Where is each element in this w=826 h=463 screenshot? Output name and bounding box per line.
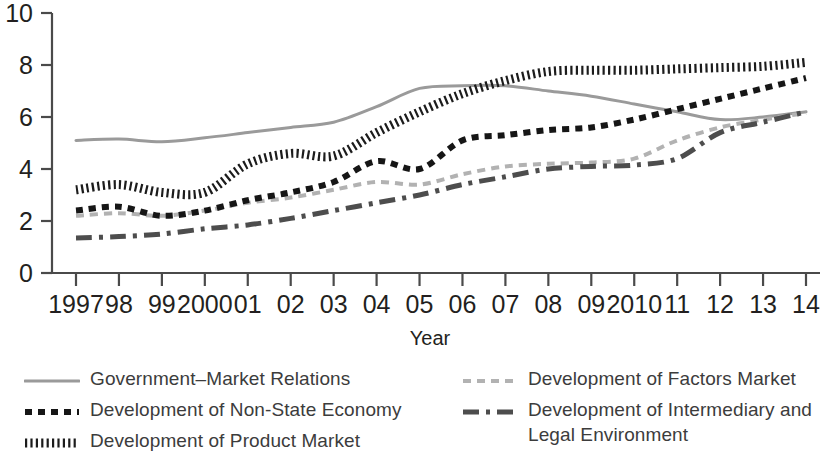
line-chart-figure: 0246810 19979899200001020304050607080920… (0, 0, 826, 463)
legend-item[interactable]: Development of Non-State Economy (24, 397, 464, 428)
chart-legend: Government–Market RelationsDevelopment o… (0, 366, 826, 463)
legend-item[interactable]: Government–Market Relations (24, 366, 464, 397)
legend-item-label: Development of Factors Market (528, 366, 796, 391)
legend-item-label: Development of Non-State Economy (90, 397, 402, 422)
legend-item-label: Government–Market Relations (90, 366, 350, 391)
x-axis-tick-label: 12 (706, 290, 734, 318)
legend-item[interactable]: Development of Factors Market (462, 366, 822, 397)
x-axis-tick-label: 04 (363, 290, 391, 318)
x-axis-tick-label: 07 (492, 290, 520, 318)
series-line (76, 113, 806, 216)
black-hatched-line-icon (24, 432, 80, 454)
x-axis-title: Year (410, 327, 451, 349)
black-square-dotted-line-icon (24, 401, 80, 423)
x-axis-tick-label: 01 (234, 290, 262, 318)
x-axis-tick-label: 11 (664, 290, 690, 318)
x-axis-tick-label: 08 (534, 290, 562, 318)
x-axis-tick-label: 03 (320, 290, 348, 318)
x-axis-tick-label: 1997 (48, 290, 104, 318)
legend-item[interactable]: Development of Product Market (24, 428, 464, 459)
x-axis-tick-label: 2000 (177, 290, 233, 318)
y-axis-tick-label: 0 (19, 259, 33, 287)
light-grey-dashed-line-icon (462, 370, 518, 392)
legend-item-label: Development of Intermediary and Legal En… (528, 397, 812, 447)
series-line (76, 62, 806, 194)
legend-marker-icon (462, 370, 518, 392)
legend-marker-icon (24, 432, 80, 454)
y-axis-tick-label: 4 (19, 155, 33, 183)
y-axis-ticks (41, 13, 52, 273)
legend-item-label: Development of Product Market (90, 428, 360, 453)
y-axis-tick-label: 8 (19, 51, 33, 79)
series-line (76, 78, 806, 216)
x-axis-tick-label: 2010 (606, 290, 662, 318)
x-axis-tick-label: 02 (277, 290, 305, 318)
series-line (76, 112, 806, 238)
legend-item[interactable]: Development of Intermediary and Legal En… (462, 397, 822, 453)
solid-grey-line-icon (24, 370, 80, 392)
chart-series-layer (76, 62, 806, 238)
x-axis-ticks (76, 273, 806, 286)
x-axis-tick-label: 06 (449, 290, 477, 318)
legend-marker-icon (24, 370, 80, 392)
x-axis-tick-label: 09 (577, 290, 605, 318)
x-axis-tick-label: 05 (406, 290, 434, 318)
x-axis-tick-label: 13 (749, 290, 777, 318)
chart-axes (41, 13, 820, 286)
y-axis-tick-labels: 0246810 (5, 0, 33, 287)
dark-dash-dot-line-icon (462, 401, 518, 423)
y-axis-tick-label: 2 (19, 207, 33, 235)
legend-column-left: Government–Market RelationsDevelopment o… (24, 366, 464, 459)
x-axis-tick-label: 98 (105, 290, 133, 318)
legend-marker-icon (24, 401, 80, 423)
legend-column-right: Development of Factors MarketDevelopment… (462, 366, 822, 453)
y-axis-tick-label: 10 (5, 0, 33, 27)
y-axis-tick-label: 6 (19, 103, 33, 131)
x-axis-tick-label: 14 (792, 290, 820, 318)
legend-marker-icon (462, 401, 518, 423)
x-axis-tick-labels: 1997989920000102030405060708092010111213… (48, 290, 820, 318)
x-axis-tick-label: 99 (148, 290, 176, 318)
